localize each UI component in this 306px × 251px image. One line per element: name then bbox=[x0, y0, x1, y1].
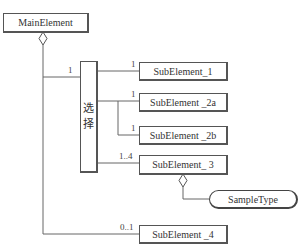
sub-element-2b-box[interactable]: SubElement _2b bbox=[139, 126, 228, 145]
sub-element-3-multiplicity: 1..4 bbox=[119, 151, 133, 161]
type-diamond-icon bbox=[179, 174, 187, 187]
choice-label-top: 选 bbox=[83, 101, 94, 117]
choice-multiplicity: 1 bbox=[68, 65, 73, 75]
sub-element-4-label: SubElement _4 bbox=[152, 229, 213, 240]
aggregation-diamond-icon bbox=[39, 32, 47, 45]
sample-type-label: SampleType bbox=[228, 194, 278, 205]
sample-type-node[interactable]: SampleType bbox=[209, 190, 298, 209]
sub-element-1-multiplicity: 1 bbox=[131, 59, 136, 69]
choice-compositor-box[interactable]: 选 择 bbox=[80, 61, 98, 173]
sub-element-3-box[interactable]: SubElement_ 3 bbox=[139, 155, 228, 175]
sub-element-2b-multiplicity: 1 bbox=[131, 123, 136, 133]
sub-element-1-box[interactable]: SubElement_1 bbox=[139, 62, 228, 81]
sub-element-3-label: SubElement_ 3 bbox=[152, 159, 213, 170]
sub-element-4-box[interactable]: SubElement _4 bbox=[139, 225, 228, 244]
sub-element-2a-multiplicity: 1 bbox=[131, 89, 136, 99]
sub-element-2a-box[interactable]: SubElement _2a bbox=[139, 93, 228, 112]
main-element-box[interactable]: MainElement bbox=[3, 13, 89, 33]
sub-element-4-multiplicity: 0..1 bbox=[120, 222, 134, 232]
sub-element-1-label: SubElement_1 bbox=[154, 66, 213, 77]
sub-element-2a-label: SubElement _2a bbox=[150, 97, 216, 108]
choice-label-bottom: 择 bbox=[83, 117, 94, 133]
main-element-label: MainElement bbox=[18, 17, 72, 28]
sub-element-2b-label: SubElement _2b bbox=[150, 130, 216, 141]
